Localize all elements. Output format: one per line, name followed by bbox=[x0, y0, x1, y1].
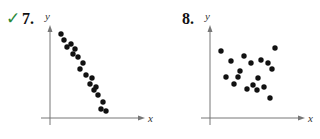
data-point bbox=[58, 31, 63, 36]
chart-7-svg: yx bbox=[0, 0, 160, 139]
data-point bbox=[77, 66, 82, 71]
data-point bbox=[98, 106, 103, 111]
data-point bbox=[228, 58, 233, 63]
data-point bbox=[80, 60, 85, 65]
data-point bbox=[70, 51, 75, 56]
data-point bbox=[258, 57, 263, 62]
data-point bbox=[267, 95, 272, 100]
data-point bbox=[83, 72, 88, 77]
data-point bbox=[248, 60, 253, 65]
x-axis-arrow-icon bbox=[138, 116, 145, 121]
data-point bbox=[61, 37, 66, 42]
y-axis-label: y bbox=[204, 10, 210, 22]
scatter-plot-7: ✓ 7. yx bbox=[0, 0, 160, 139]
scatter-plot-8: 8. yx bbox=[160, 0, 320, 139]
y-axis-arrow-icon bbox=[208, 25, 213, 32]
data-point bbox=[272, 45, 277, 50]
x-axis-label: x bbox=[147, 112, 153, 124]
data-point bbox=[103, 108, 108, 113]
x-axis-arrow-icon bbox=[298, 116, 305, 121]
data-point bbox=[223, 74, 228, 79]
y-axis-label: y bbox=[44, 10, 50, 22]
data-point bbox=[235, 74, 240, 79]
data-point bbox=[250, 82, 255, 87]
data-point bbox=[100, 99, 105, 104]
data-point bbox=[72, 46, 77, 51]
data-point bbox=[231, 81, 236, 86]
data-point bbox=[244, 86, 249, 91]
data-point bbox=[261, 84, 266, 89]
data-point bbox=[265, 60, 270, 65]
data-point bbox=[269, 66, 274, 71]
y-axis-arrow-icon bbox=[48, 25, 53, 32]
x-axis-label: x bbox=[307, 112, 313, 124]
data-point bbox=[254, 87, 259, 92]
data-point bbox=[87, 81, 92, 86]
data-point bbox=[89, 75, 94, 80]
data-point bbox=[95, 92, 100, 97]
data-point bbox=[68, 41, 73, 46]
data-point bbox=[91, 87, 96, 92]
chart-8-svg: yx bbox=[160, 0, 320, 139]
data-point bbox=[75, 54, 80, 59]
data-point bbox=[241, 53, 246, 58]
data-point bbox=[237, 68, 242, 73]
data-point bbox=[218, 48, 223, 53]
data-point bbox=[255, 75, 260, 80]
